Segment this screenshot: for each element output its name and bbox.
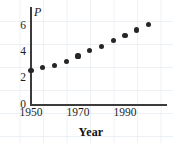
- data-point: [75, 53, 80, 58]
- y-axis-line: [30, 7, 32, 106]
- y-tick-label: 6: [0, 20, 26, 32]
- y-axis-variable-label: P: [34, 6, 41, 18]
- y-tick-label: 2: [0, 72, 26, 84]
- x-tick-label: 1970: [56, 107, 100, 119]
- data-point: [111, 38, 116, 43]
- data-point: [146, 22, 151, 27]
- plot-area: P 0246 195019701990 Year: [0, 0, 173, 143]
- x-tick-label: 1950: [9, 107, 53, 119]
- data-point: [40, 65, 45, 70]
- data-point: [87, 48, 92, 53]
- scatter-plot-figure: P 0246 195019701990 Year: [0, 0, 173, 143]
- x-axis-line: [30, 104, 167, 106]
- data-point: [99, 44, 104, 49]
- data-point: [122, 33, 127, 38]
- data-point: [134, 27, 139, 32]
- data-point: [28, 68, 33, 73]
- x-tick-label: 1990: [103, 107, 147, 119]
- data-point: [52, 63, 57, 68]
- y-tick-label: 4: [0, 46, 26, 58]
- x-axis-title: Year: [56, 126, 126, 138]
- data-point: [64, 59, 69, 64]
